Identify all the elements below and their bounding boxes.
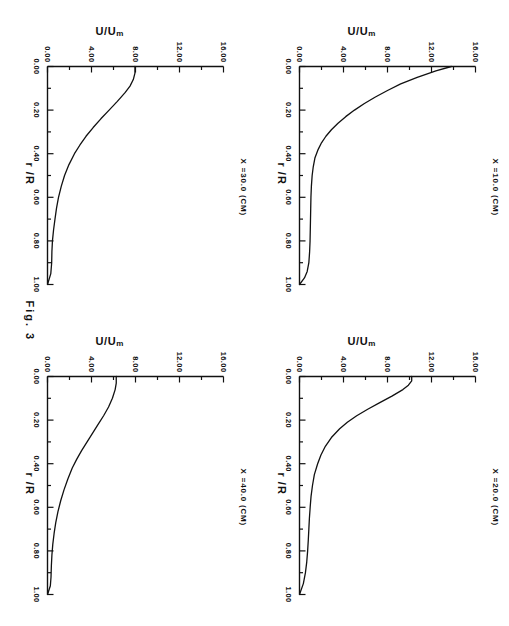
y-tick-label: 4.00 (339, 342, 348, 372)
tick-marks (299, 66, 475, 284)
y-tick-label: 12.00 (427, 342, 436, 372)
axis-and-curve-x10 (299, 66, 475, 284)
x-tick-label: 0.40 (31, 455, 40, 471)
x-tick-label: 1.00 (31, 586, 40, 602)
axis-and-curve-x20 (299, 376, 475, 594)
figure-sheet: X =10.0 (CM) 0.000.200.400.600.801.00 0.… (0, 0, 509, 626)
y-tick-label: 8.00 (131, 342, 140, 372)
scanned-page: 10 X =10.0 (CM) 0.000.200.400.600.801.00… (0, 0, 509, 626)
x-tick-label: 1.00 (283, 276, 292, 292)
x-tick-label: 0.80 (283, 542, 292, 558)
axis-lines (47, 376, 223, 594)
y-axis-label-x10: U/Um (347, 24, 375, 37)
panel-title-x10: X =10.0 (CM) (490, 158, 499, 215)
y-tick-label: 0.00 (295, 32, 304, 62)
x-tick-label: 0.40 (283, 145, 292, 161)
x-axis-label-x30: r /R (23, 162, 35, 184)
x-tick-label: 1.00 (31, 276, 40, 292)
plot-panel-x10: X =10.0 (CM) 0.000.200.400.600.801.00 0.… (257, 8, 505, 308)
x-tick-label: 0.60 (283, 499, 292, 515)
axis-lines (299, 376, 475, 594)
y-tick-label: 8.00 (383, 342, 392, 372)
x-tick-label: 0.00 (31, 368, 40, 384)
x-tick-label: 0.80 (31, 232, 40, 248)
plot-panel-x40: X =40.0 (CM) 0.000.200.400.600.801.00 0.… (5, 318, 253, 618)
y-tick-label: 4.00 (339, 32, 348, 62)
y-tick-label: 8.00 (383, 32, 392, 62)
y-tick-label: 8.00 (131, 32, 140, 62)
plot-area-x30: 0.000.200.400.600.801.00 0.004.008.0012.… (47, 66, 223, 284)
y-tick-label: 12.00 (427, 32, 436, 62)
x-tick-label: 0.60 (31, 499, 40, 515)
plot-panel-x20: X =20.0 (CM) 0.000.200.400.600.801.00 0.… (257, 318, 505, 618)
figure-caption: Fig. 3 (23, 300, 35, 341)
x-tick-label: 0.40 (283, 455, 292, 471)
y-tick-label: 4.00 (87, 342, 96, 372)
x-tick-label: 0.20 (31, 101, 40, 117)
axis-lines (47, 66, 223, 284)
y-axis-label-x20: U/Um (347, 334, 375, 347)
x-tick-label: 0.60 (283, 189, 292, 205)
x-tick-label: 1.00 (283, 586, 292, 602)
panel-title-x20: X =20.0 (CM) (490, 468, 499, 525)
x-tick-label: 0.40 (31, 145, 40, 161)
data-curve-x30 (47, 66, 134, 284)
x-tick-label: 0.20 (283, 411, 292, 427)
tick-marks (299, 376, 475, 594)
y-tick-label: 12.00 (175, 342, 184, 372)
y-tick-label: 0.00 (43, 32, 52, 62)
y-tick-label: 0.00 (43, 342, 52, 372)
y-tick-label: 4.00 (87, 32, 96, 62)
tick-marks (47, 376, 223, 594)
axis-and-curve-x40 (47, 376, 223, 594)
x-tick-label: 0.60 (31, 189, 40, 205)
y-tick-label: 16.00 (219, 342, 228, 372)
plot-panel-x30: X =30.0 (CM) 0.000.200.400.600.801.00 0.… (5, 8, 253, 308)
panel-title-x30: X =30.0 (CM) (238, 158, 247, 215)
x-tick-label: 0.00 (283, 368, 292, 384)
y-tick-label: 16.00 (219, 32, 228, 62)
y-tick-label: 16.00 (471, 32, 480, 62)
axis-lines (299, 66, 475, 284)
panel-title-x40: X =40.0 (CM) (238, 468, 247, 525)
tick-marks (47, 66, 223, 284)
y-axis-label-x40: U/Um (95, 334, 123, 347)
data-curve-x40 (47, 376, 116, 594)
x-axis-label-x10: r /R (275, 162, 287, 184)
x-tick-label: 0.20 (31, 411, 40, 427)
y-tick-label: 16.00 (471, 342, 480, 372)
x-tick-label: 0.80 (283, 232, 292, 248)
y-tick-label: 12.00 (175, 32, 184, 62)
x-tick-label: 0.00 (31, 58, 40, 74)
data-curve-x20 (299, 376, 411, 594)
x-axis-label-x20: r /R (275, 472, 287, 494)
plot-area-x10: 0.000.200.400.600.801.00 0.004.008.0012.… (299, 66, 475, 284)
x-tick-label: 0.00 (283, 58, 292, 74)
axis-and-curve-x30 (47, 66, 223, 284)
x-axis-label-x40: r /R (23, 472, 35, 494)
data-curve-x10 (299, 66, 451, 284)
y-tick-label: 0.00 (295, 342, 304, 372)
y-axis-label-x30: U/Um (95, 24, 123, 37)
plot-area-x20: 0.000.200.400.600.801.00 0.004.008.0012.… (299, 376, 475, 594)
x-tick-label: 0.80 (31, 542, 40, 558)
x-tick-label: 0.20 (283, 101, 292, 117)
plot-area-x40: 0.000.200.400.600.801.00 0.004.008.0012.… (47, 376, 223, 594)
